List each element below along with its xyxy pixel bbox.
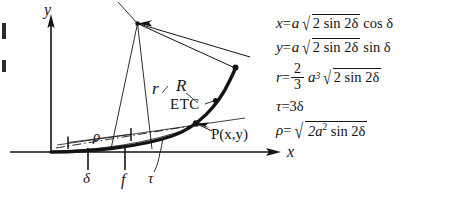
tau-angle-leader <box>154 138 163 172</box>
equation-y-coefficient: a <box>292 40 300 55</box>
equation-list: x = a √ 2 sin 2δ cos δ y = a √ 2 sin 2δ … <box>276 12 456 143</box>
equation-y-sqrt: √ 2 sin 2δ <box>301 38 360 55</box>
equation-r: r = 2 3 a3 √ 2 sin 2δ <box>276 60 456 94</box>
label-r: r <box>152 79 159 99</box>
main-curve <box>51 68 236 152</box>
equation-x: x = a √ 2 sin 2δ cos δ <box>276 12 456 34</box>
equation-rho-radicand-tail: sin 2δ <box>331 122 366 138</box>
equation-r-exponent: 3 <box>316 72 321 82</box>
equation-y: y = a √ 2 sin 2δ sin δ <box>276 36 456 58</box>
radical-sign-icon: √ <box>303 15 311 32</box>
equation-y-trailing: sin δ <box>363 40 390 55</box>
equation-r-radicand: 2 sin 2δ <box>333 68 382 85</box>
equation-rho-radicand-exponent: 2 <box>322 122 327 132</box>
r-leader-line <box>162 86 168 93</box>
equation-x-coefficient: a <box>292 16 300 31</box>
equation-r-equals: = <box>282 70 290 85</box>
radical-sign-icon: √ <box>324 69 332 86</box>
equation-tau-rhs: 3δ <box>290 99 304 114</box>
fraction-denominator: 3 <box>291 77 304 93</box>
y-axis <box>47 14 54 152</box>
curve-endpoint-dot <box>233 65 239 71</box>
equation-rho-lhs: ρ <box>276 123 283 138</box>
equation-tau: τ = 3δ <box>276 95 456 117</box>
equation-x-trailing: cos δ <box>363 16 393 31</box>
y-axis-label: y <box>44 1 51 19</box>
fraction-numerator: 2 <box>291 62 304 77</box>
equation-x-sqrt: √ 2 sin 2δ <box>301 14 360 31</box>
equation-y-radicand: 2 sin 2δ <box>312 38 361 55</box>
radical-sign-icon: √ <box>303 39 311 56</box>
equation-rho-radicand-lead: 2a <box>308 122 323 138</box>
equation-rho-equals: = <box>283 123 291 138</box>
label-f: f <box>121 171 125 189</box>
point-p-leader <box>195 123 212 132</box>
equation-rho-sqrt: √ 2a2 sin 2δ <box>293 121 367 140</box>
equation-r-sqrt: √ 2 sin 2δ <box>322 68 381 85</box>
label-delta: δ <box>83 170 90 187</box>
figure-canvas: y x r R ETC P(x,y) ρ δ f τ x = a √ 2 sin… <box>0 0 456 211</box>
equation-y-equals: = <box>283 40 291 55</box>
equation-rho: ρ = √ 2a2 sin 2δ <box>276 119 456 141</box>
equation-r-coefficient: a <box>308 70 316 85</box>
equation-tau-equals: = <box>281 99 289 114</box>
equation-r-fraction: 2 3 <box>291 62 304 92</box>
x-axis-label: x <box>287 143 294 161</box>
equation-x-equals: = <box>283 16 291 31</box>
equation-y-lhs: y <box>276 40 283 55</box>
equation-x-radicand: 2 sin 2δ <box>312 14 361 31</box>
label-etc: ETC <box>170 96 200 113</box>
equation-rho-radicand: 2a2 sin 2δ <box>305 121 368 140</box>
label-tau: τ <box>148 170 153 187</box>
label-rho: ρ <box>93 128 100 145</box>
radical-sign-icon: √ <box>295 122 304 141</box>
label-point-p: P(x,y) <box>211 126 248 143</box>
label-R: R <box>176 76 186 96</box>
equation-x-lhs: x <box>276 16 283 31</box>
